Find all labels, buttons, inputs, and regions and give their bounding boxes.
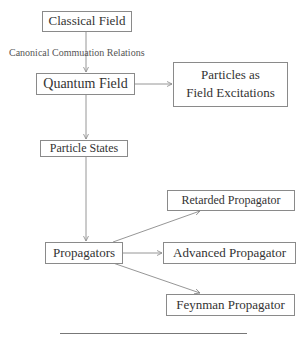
- particles-line-2: Field Excitations: [186, 86, 274, 101]
- node-particles-as-field-excitations: Particles as Field Excitations: [173, 62, 288, 107]
- edge-propagators-to-feynman: [113, 263, 200, 293]
- footnote-rule: [60, 333, 247, 334]
- node-retarded-propagator: Retarded Propagator: [167, 190, 295, 211]
- node-advanced-propagator: Advanced Propagator: [163, 242, 296, 264]
- edge-propagators-to-retarded: [113, 211, 200, 242]
- node-quantum-field: Quantum Field: [36, 73, 135, 95]
- node-particle-states: Particle States: [40, 140, 128, 157]
- node-classical-field: Classical Field: [42, 11, 132, 32]
- edge-label-canonical-commutation: Canonical Commuation Relations: [9, 47, 145, 58]
- node-feynman-propagator: Feynman Propagator: [166, 294, 295, 316]
- particles-line-1: Particles as: [201, 68, 260, 83]
- node-propagators: Propagators: [45, 242, 123, 264]
